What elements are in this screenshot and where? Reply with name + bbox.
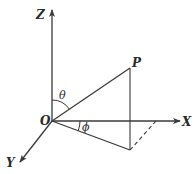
theta-label: θ [59,89,66,102]
spherical-coordinates-diagram: Z X Y O P θ ϕ [0,0,195,174]
dashed-guide-line [130,121,156,150]
phi-arc [78,121,80,131]
y-axis-label: Y [6,156,16,170]
x-axis-label: X [181,115,192,129]
origin-label: O [40,114,51,128]
phi-label: ϕ [82,121,90,134]
xy-projection-line [52,121,130,150]
point-p-label: P [131,56,142,70]
z-axis-label: Z [35,8,46,22]
